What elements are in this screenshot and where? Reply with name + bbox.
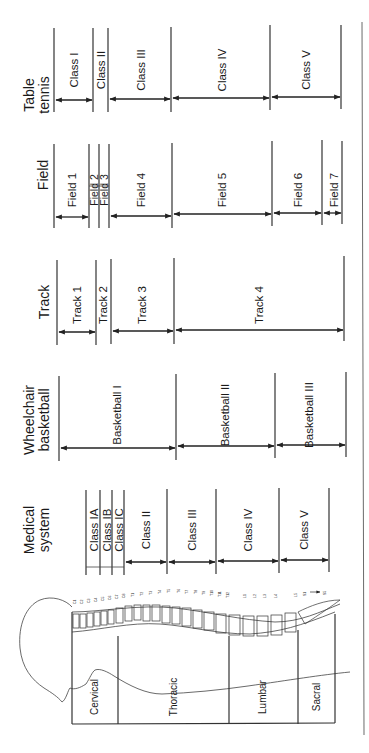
medical-system-column: Medical system Class IA Class IB Class I… [21,488,329,575]
svg-text:T11: T11 [218,591,222,597]
field-header: Field [35,160,51,190]
tt-class-iv: Class IV [216,48,228,91]
svg-text:L2: L2 [253,594,257,598]
vertebral-column [72,604,340,634]
medical-class-ii: Class II [140,511,152,549]
svg-text:T10: T10 [210,590,214,596]
table-tennis-header: Table [21,78,37,112]
svg-text:C1: C1 [73,599,77,604]
tt-class-v: Class V [300,50,312,90]
svg-text:C4: C4 [94,597,98,602]
region-sacral: Sacral [311,683,322,711]
medical-class-ia: Class IA [88,508,100,551]
s5-label: S5 [323,591,327,595]
wheelchair-basketball-header: Wheelchair [21,385,37,455]
svg-text:L4: L4 [274,594,278,598]
region-cervical: Cervical [89,679,100,715]
tt-class-i: Class I [68,52,80,87]
svg-text:C3: C3 [87,598,91,603]
track-2: Track 2 [97,286,109,324]
svg-text:L1: L1 [243,594,247,598]
medical-system-header: Medical [21,506,37,554]
region-lumbar: Lumbar [257,679,268,714]
svg-text:L3: L3 [263,594,267,598]
field-4: Field 4 [135,172,147,207]
table-tennis-column: Table tennis Class I Class II Class III … [21,25,341,114]
track-3: Track 3 [136,286,148,324]
svg-text:C6: C6 [108,595,112,600]
svg-text:T5: T5 [167,589,171,593]
wheelchair-basketball-header-2: basketball [36,388,52,451]
spinal-classification-diagram: Table tennis Class I Class II Class III … [0,0,369,753]
svg-text:S1: S1 [303,592,307,596]
track-1: Track 1 [71,286,83,324]
medical-class-ic: Class IC [113,508,125,551]
track-column: Track Track 1 Track 2 Track 3 Track 4 [36,256,344,345]
basketball-i: Basketball I [111,385,123,444]
svg-text:T3: T3 [149,591,153,595]
track-header: Track [36,284,52,319]
spine-illustration: C1 C2 C3 C4 C5 C6 C7 C8 T1 T2 T3 T4 T5 T… [20,589,350,702]
tt-class-ii: Class II [95,51,107,89]
svg-text:C7: C7 [115,594,119,599]
wheelchair-basketball-column: Wheelchair basketball Basketball I Baske… [21,372,346,461]
medical-system-header-2: system [36,508,52,552]
svg-text:T12: T12 [226,592,230,598]
page-rule [362,22,364,735]
svg-text:C5: C5 [101,596,105,601]
svg-text:T9: T9 [202,591,206,595]
svg-text:L5: L5 [294,593,298,597]
medical-class-v: Class V [298,510,310,550]
field-5: Field 5 [216,173,228,208]
svg-text:T2: T2 [140,592,144,596]
region-thoracic: Thoracic [168,678,179,716]
basketball-ii: Basketball II [219,384,231,447]
vertebra-level-labels: C1 C2 C3 C4 C5 C6 C7 C8 T1 T2 T3 T4 T5 T… [73,589,307,604]
medical-class-ib: Class IB [101,508,113,551]
svg-text:T4: T4 [158,590,162,594]
field-6: Field 6 [292,173,304,208]
table-tennis-header-2: tennis [36,76,52,113]
field-7: Field 7 [328,173,340,208]
svg-text:T8: T8 [194,590,198,594]
field-1: Field 1 [66,173,78,208]
svg-text:C8: C8 [122,593,126,598]
basketball-iii: Basketball III [303,382,315,448]
svg-text:T7: T7 [185,590,189,594]
field-3: Field 3 [98,174,110,206]
svg-text:C2: C2 [80,599,84,604]
medical-class-iv: Class IV [242,508,254,551]
svg-text:T1: T1 [131,593,135,597]
spine-region-table: Cervical Thoracic Lumbar Sacral [72,612,335,724]
tt-class-iii: Class III [135,49,147,91]
medical-class-iii: Class III [186,509,198,551]
head-outline [20,598,350,702]
svg-text:T6: T6 [177,589,181,593]
field-column: Field Field 1 Field 2 Field 3 Field 4 Fi… [35,140,342,228]
track-4: Track 4 [253,285,265,324]
